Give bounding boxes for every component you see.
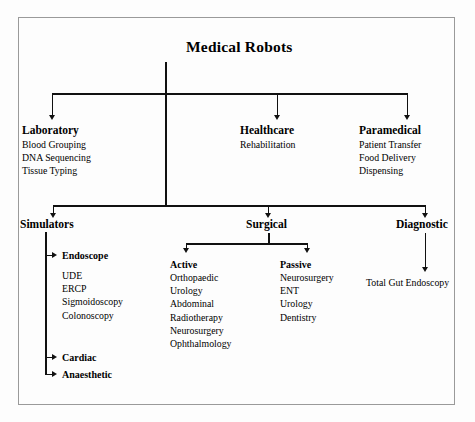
node-endoscope-label: Endoscope <box>62 249 108 262</box>
list-item: Orthopaedic <box>170 271 232 284</box>
diagnostic-stem <box>425 233 426 269</box>
tier2-bus <box>53 205 425 207</box>
node-paramedical-label: Paramedical <box>359 124 421 138</box>
node-paramedical: Paramedical Patient Transfer Food Delive… <box>359 124 421 177</box>
node-laboratory: Laboratory Blood Grouping DNA Sequencing… <box>22 124 91 177</box>
node-anaesthetic-label: Anaesthetic <box>62 368 112 381</box>
node-passive-label: Passive <box>280 258 334 271</box>
node-total-gut-endoscopy: Total Gut Endoscopy <box>366 276 449 289</box>
node-simulators-label: Simulators <box>20 218 74 232</box>
node-active-label: Active <box>170 258 232 271</box>
list-item: Urology <box>280 297 334 310</box>
arrow-down-icon-passive <box>304 248 310 253</box>
tier1-drop-paramedical <box>407 93 408 116</box>
list-item: Food Delivery <box>359 151 421 164</box>
arrow-down-icon-healthcare <box>274 115 280 120</box>
list-item: Abdominal <box>170 297 232 310</box>
list-item: ENT <box>280 284 334 297</box>
arrow-down-icon-paramedical <box>404 115 410 120</box>
list-item: Colonoscopy <box>62 309 123 322</box>
diagram-canvas: Medical Robots Laboratory Blood Grouping… <box>0 0 475 422</box>
tier1-drop-laboratory <box>52 93 53 116</box>
node-diagnostic-label: Diagnostic <box>396 218 448 232</box>
list-item: Sigmoidoscopy <box>62 295 123 308</box>
node-healthcare-items: Rehabilitation <box>240 138 296 151</box>
arrow-right-icon-endoscope <box>52 252 57 258</box>
node-passive-items: Neurosurgery ENT Urology Dentistry <box>280 271 334 324</box>
tier1-bus <box>52 93 408 95</box>
list-item: Dentistry <box>280 311 334 324</box>
root-title: Medical Robots <box>186 38 293 56</box>
node-healthcare-label: Healthcare <box>240 124 296 138</box>
diagram-border <box>18 17 455 405</box>
list-item: Urology <box>170 284 232 297</box>
node-laboratory-items: Blood Grouping DNA Sequencing Tissue Typ… <box>22 138 91 178</box>
list-item: Patient Transfer <box>359 138 421 151</box>
list-item: ERCP <box>62 282 123 295</box>
list-item: Radiotherapy <box>170 311 232 324</box>
list-item: Tissue Typing <box>22 164 91 177</box>
arrow-down-icon-total-gut-endoscopy <box>422 267 428 272</box>
node-laboratory-label: Laboratory <box>22 124 91 138</box>
node-surgical-label: Surgical <box>246 218 287 232</box>
arrow-down-icon-active <box>183 248 189 253</box>
arrow-right-icon-anaesthetic <box>52 371 57 377</box>
surgical-stem <box>268 233 270 243</box>
list-item: DNA Sequencing <box>22 151 91 164</box>
surgical-bus <box>186 243 307 245</box>
main-trunk <box>165 93 167 205</box>
list-item: UDE <box>62 269 123 282</box>
node-passive: Passive Neurosurgery ENT Urology Dentist… <box>280 258 334 324</box>
list-item: Ophthalmology <box>170 337 232 350</box>
node-active-items: Orthopaedic Urology Abdominal Radiothera… <box>170 271 232 350</box>
node-active: Active Orthopaedic Urology Abdominal Rad… <box>170 258 232 350</box>
node-healthcare: Healthcare Rehabilitation <box>240 124 296 151</box>
list-item: Blood Grouping <box>22 138 91 151</box>
tier1-drop-healthcare <box>277 93 278 116</box>
arrow-down-icon-laboratory <box>49 115 55 120</box>
node-paramedical-items: Patient Transfer Food Delivery Dispensin… <box>359 138 421 178</box>
node-cardiac-label: Cardiac <box>62 351 96 364</box>
list-item: Rehabilitation <box>240 138 296 151</box>
simulators-spine <box>45 232 47 375</box>
list-item: Neurosurgery <box>280 271 334 284</box>
list-item: Neurosurgery <box>170 324 232 337</box>
node-endoscope-items: UDE ERCP Sigmoidoscopy Colonoscopy <box>62 269 123 322</box>
list-item: Dispensing <box>359 164 421 177</box>
arrow-right-icon-cardiac <box>52 354 57 360</box>
root-stem <box>165 62 167 93</box>
